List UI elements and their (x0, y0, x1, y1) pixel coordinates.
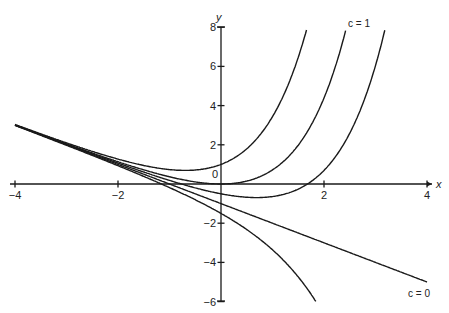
x-tick-label: −4 (9, 189, 22, 201)
y-tick-label: 2 (210, 139, 216, 151)
y-tick-label: −2 (203, 217, 216, 229)
y-axis-label: y (215, 11, 223, 23)
solution-curve-c-1 (15, 31, 346, 184)
solution-curve-c-0_5 (15, 30, 385, 197)
solution-curve-c-2 (15, 30, 307, 170)
y-tick-label: 0 (212, 168, 218, 180)
y-tick-label: −4 (203, 256, 216, 268)
x-axis-label: x (435, 178, 442, 190)
curve-label-c1: c = 1 (348, 18, 370, 29)
x-tick-label: 4 (424, 189, 430, 201)
x-tick-label: −2 (112, 189, 125, 201)
solution-curve-c-neg0_5 (15, 125, 316, 301)
curve-label-c0: c = 0 (408, 288, 430, 299)
x-axis-arrow-icon (427, 182, 432, 187)
y-tick-label: 4 (210, 100, 216, 112)
solution-curves-plot: −4−224−6−4−202468 x y c = 1 c = 0 (0, 0, 449, 313)
y-tick-label: 8 (210, 21, 216, 33)
y-tick-label: 6 (210, 60, 216, 72)
x-tick-label: 2 (321, 189, 327, 201)
y-tick-label: −6 (203, 296, 216, 308)
